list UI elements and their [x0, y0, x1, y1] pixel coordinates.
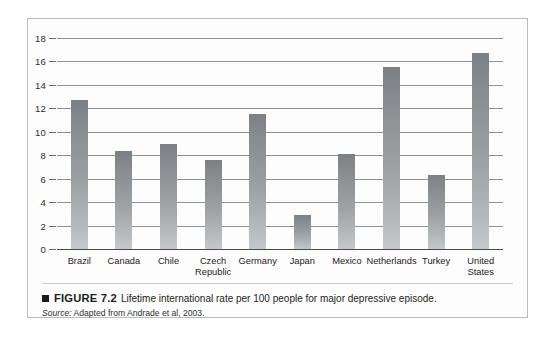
source-label: Source: — [42, 308, 72, 318]
y-axis-tick-mark — [49, 179, 56, 180]
y-axis-tick-label: 14 — [35, 79, 46, 90]
y-axis-tick-mark — [49, 249, 56, 250]
gridline — [57, 61, 503, 62]
y-axis-tick-label: 4 — [41, 197, 46, 208]
bar — [338, 154, 355, 249]
figure-panel: 024681012141618BrazilCanadaChileCzechRep… — [27, 18, 528, 318]
x-axis-category-label: Canada — [108, 256, 141, 267]
x-axis-baseline — [57, 249, 503, 250]
gridline — [57, 132, 503, 133]
y-axis-tick-mark — [49, 155, 56, 156]
gridline — [57, 38, 503, 39]
bar — [205, 160, 222, 249]
x-axis-category-label: Turkey — [422, 256, 450, 267]
y-axis-tick-label: 6 — [41, 173, 46, 184]
x-axis-category-label: UnitedStates — [467, 256, 494, 278]
figure-number-label: FIGURE 7.2 — [54, 292, 117, 304]
bar — [383, 67, 400, 249]
caption-divider — [42, 283, 513, 284]
y-axis-tick-mark — [49, 226, 56, 227]
y-axis-tick-label: 10 — [35, 126, 46, 137]
y-axis-tick-label: 18 — [35, 33, 46, 44]
bar — [160, 144, 177, 250]
plot-area: 024681012141618BrazilCanadaChileCzechRep… — [57, 38, 503, 249]
y-axis-tick-mark — [49, 85, 56, 86]
y-axis-tick-label: 16 — [35, 56, 46, 67]
x-axis-category-label: Japan — [290, 256, 315, 267]
y-axis-tick-mark — [49, 202, 56, 203]
y-axis-tick-label: 0 — [41, 244, 46, 255]
x-axis-category-label: Netherlands — [366, 256, 416, 267]
figure-source-line: Source: Adapted from Andrade et al, 2003… — [42, 308, 513, 318]
figure-caption-text: Lifetime international rate per 100 peop… — [121, 293, 437, 304]
source-text: Adapted from Andrade et al, 2003. — [74, 308, 205, 318]
y-axis-tick-mark — [49, 38, 56, 39]
gridline — [57, 85, 503, 86]
chart-plot-block: 024681012141618BrazilCanadaChileCzechRep… — [28, 19, 527, 281]
x-axis-category-label: Brazil — [68, 256, 91, 267]
y-axis-tick-mark — [49, 61, 56, 62]
y-axis-tick-mark — [49, 132, 56, 133]
y-axis-tick-label: 8 — [41, 150, 46, 161]
y-axis-tick-mark — [49, 108, 56, 109]
bar — [115, 151, 132, 249]
bar — [428, 175, 445, 249]
y-axis-tick-label: 12 — [35, 103, 46, 114]
y-axis-tick-label: 2 — [41, 220, 46, 231]
bar — [71, 100, 88, 249]
black-square-icon — [42, 295, 49, 302]
figure-caption-block: FIGURE 7.2Lifetime international rate pe… — [28, 283, 527, 318]
figure-caption-line: FIGURE 7.2Lifetime international rate pe… — [42, 292, 513, 305]
bar — [472, 53, 489, 249]
x-axis-category-label: Chile — [158, 256, 179, 267]
x-axis-category-label: Germany — [239, 256, 277, 267]
bar — [294, 215, 311, 249]
bar — [249, 114, 266, 249]
x-axis-category-label: Mexico — [332, 256, 361, 267]
gridline — [57, 108, 503, 109]
x-axis-category-label: CzechRepublic — [195, 256, 231, 278]
